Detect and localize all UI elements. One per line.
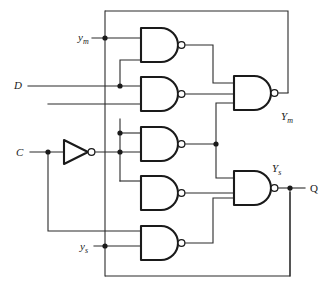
nand-4-bubble-icon	[178, 190, 185, 197]
cbar-tap-gate3	[117, 130, 140, 135]
c-input-label: C	[16, 146, 24, 158]
c-input-wire	[30, 149, 63, 154]
nand-gate-4[interactable]	[141, 176, 185, 210]
ym-input-label: ym	[77, 31, 89, 46]
d-input-label: D	[13, 79, 22, 91]
inverter-output-wire	[95, 149, 140, 154]
ys-input-wire	[94, 243, 140, 248]
nand-gate-2[interactable]	[141, 77, 185, 111]
ys-input-label: ys	[79, 240, 88, 255]
circuit-diagram: ym D C	[0, 0, 329, 295]
nand-gate-ys[interactable]	[234, 171, 278, 205]
nand-gate-5[interactable]	[141, 226, 185, 260]
nand-ym-bubble-icon	[271, 90, 278, 97]
feedback-rail-bottom	[105, 192, 290, 276]
nand-3-bubble-icon	[178, 141, 185, 148]
inverter-bubble-icon	[88, 149, 95, 156]
ym-input-wire	[92, 35, 140, 40]
q-output-label: Q	[310, 182, 318, 194]
nand-1-output-wire	[185, 45, 233, 83]
nand-gate-ym[interactable]	[234, 76, 278, 110]
logic-circuit-canvas: ym D C	[0, 0, 329, 295]
c-direct-bus	[48, 152, 140, 231]
nand-5-bubble-icon	[178, 240, 185, 247]
nand-ys-output-wire	[278, 185, 305, 276]
nand-3-output-wire	[185, 103, 233, 178]
nand-gate-3[interactable]	[141, 127, 185, 161]
d-branch-bus	[120, 60, 140, 86]
ym-output-label: Ym	[281, 110, 293, 125]
nand-5-output-wire	[185, 198, 233, 243]
nand-gate-1[interactable]	[141, 28, 185, 62]
nand-1-bubble-icon	[178, 42, 185, 49]
nand-2-bubble-icon	[178, 91, 185, 98]
d-input-wire	[28, 83, 140, 88]
nand-ys-bubble-icon	[271, 185, 278, 192]
ys-output-label: Ys	[272, 162, 281, 177]
inverter-c[interactable]	[64, 140, 95, 164]
